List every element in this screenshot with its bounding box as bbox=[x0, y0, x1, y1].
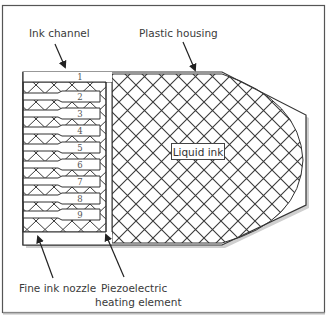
svg-text:3: 3 bbox=[77, 109, 82, 119]
svg-text:9: 9 bbox=[77, 210, 82, 220]
channel-numbers: 1 2 3 4 5 6 7 8 9 bbox=[77, 72, 82, 220]
label-liquid-ink: Liquid ink bbox=[171, 143, 225, 160]
svg-text:5: 5 bbox=[77, 143, 82, 153]
svg-text:2: 2 bbox=[77, 92, 82, 102]
piezo-strip bbox=[106, 82, 112, 234]
inkjet-diagram: 1 2 3 4 5 6 7 8 9 Ink channel Plastic ho… bbox=[0, 0, 335, 320]
svg-text:1: 1 bbox=[77, 72, 82, 82]
label-plastic-housing: Plastic housing bbox=[139, 27, 218, 39]
svg-text:7: 7 bbox=[77, 177, 82, 187]
label-ink-channel: Ink channel bbox=[29, 27, 90, 39]
label-piezo-line2: heating element bbox=[95, 296, 182, 308]
svg-text:8: 8 bbox=[77, 194, 82, 204]
label-piezo-line1: Piezoelectric bbox=[101, 282, 167, 294]
label-fine-ink-nozzle: Fine ink nozzle bbox=[19, 282, 96, 294]
svg-text:4: 4 bbox=[77, 126, 82, 136]
svg-text:6: 6 bbox=[77, 160, 82, 170]
diagram-canvas: 1 2 3 4 5 6 7 8 9 bbox=[0, 0, 335, 320]
